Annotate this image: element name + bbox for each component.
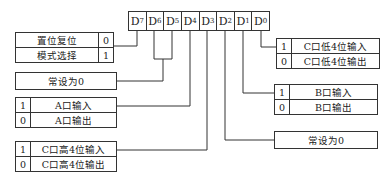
row-bit: 0 bbox=[16, 157, 31, 171]
table-row: 0 C口高4位输出 bbox=[16, 156, 116, 171]
row-bit: 1 bbox=[277, 39, 292, 53]
bit-d5: D5 bbox=[164, 12, 182, 30]
bit-d6: D6 bbox=[147, 12, 165, 30]
table-row: 1 B口输入 bbox=[275, 85, 377, 99]
row-bit: 1 bbox=[275, 85, 290, 99]
table-row: 0 A口输出 bbox=[16, 112, 116, 127]
row-bit: 1 bbox=[98, 48, 113, 62]
control-word-register: D7 D6 D5 D4 D3 D2 D1 D0 bbox=[128, 11, 270, 31]
d6-d5-reserved-box: 常设为0 bbox=[15, 72, 117, 90]
row-bit: 0 bbox=[98, 33, 113, 47]
table-row: 0 C口低4位输出 bbox=[277, 53, 379, 68]
bit-d3: D3 bbox=[200, 12, 218, 30]
row-label: A口输入 bbox=[31, 98, 116, 112]
row-label: 置位复位 bbox=[16, 33, 98, 47]
d7-mode-table: 置位复位 0 模式选择 1 bbox=[15, 32, 114, 63]
row-bit: 1 bbox=[16, 142, 31, 156]
row-label: A口输出 bbox=[31, 113, 116, 127]
d0-port-c-low-table: 1 C口低4位输入 0 C口低4位输出 bbox=[276, 38, 380, 69]
row-bit: 0 bbox=[16, 113, 31, 127]
table-row: 置位复位 0 bbox=[16, 33, 113, 47]
d1-port-b-table: 1 B口输入 0 B口输出 bbox=[274, 84, 378, 115]
bit-d1: D1 bbox=[235, 12, 253, 30]
d4-port-a-table: 1 A口输入 0 A口输出 bbox=[15, 97, 117, 128]
d3-port-c-high-table: 1 C口高4位输入 0 C口高4位输出 bbox=[15, 141, 117, 172]
table-row: 1 A口输入 bbox=[16, 98, 116, 112]
box-label: 常设为0 bbox=[48, 74, 84, 88]
row-label: C口低4位输入 bbox=[292, 39, 379, 53]
row-label: C口低4位输出 bbox=[292, 54, 379, 68]
row-label: C口高4位输入 bbox=[31, 142, 116, 156]
table-row: 1 C口高4位输入 bbox=[16, 142, 116, 156]
table-row: 1 C口低4位输入 bbox=[277, 39, 379, 53]
row-label: 模式选择 bbox=[16, 48, 98, 62]
bit-d4: D4 bbox=[182, 12, 200, 30]
row-label: B口输入 bbox=[290, 85, 377, 99]
row-bit: 0 bbox=[277, 54, 292, 68]
row-label: B口输出 bbox=[290, 100, 377, 114]
bit-d0: D0 bbox=[252, 12, 269, 30]
table-row: 0 B口输出 bbox=[275, 99, 377, 114]
bit-d7: D7 bbox=[129, 12, 147, 30]
row-bit: 1 bbox=[16, 98, 31, 112]
d2-reserved-box: 常设为0 bbox=[274, 131, 378, 149]
row-bit: 0 bbox=[275, 100, 290, 114]
box-label: 常设为0 bbox=[308, 133, 344, 147]
row-label: C口高4位输出 bbox=[31, 157, 116, 171]
bit-d2: D2 bbox=[217, 12, 235, 30]
table-row: 模式选择 1 bbox=[16, 47, 113, 62]
